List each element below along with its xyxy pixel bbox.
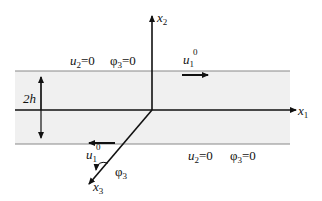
layer-diagram: x2 x1 x3 2h u2=0 φ3=0 u10 u2=0 φ3=0 u10 … — [0, 0, 322, 201]
bottom-cond-phi3: φ3=0 — [230, 148, 256, 165]
bottom-cond-u2: u2=0 — [188, 148, 213, 165]
x2-label: x2 — [156, 10, 167, 27]
top-cond-u2: u2=0 — [70, 53, 95, 70]
rotation-label: φ3 — [115, 164, 128, 181]
top-velocity-label: u10 — [183, 47, 198, 69]
bottom-velocity-label: u10 — [86, 142, 101, 164]
thickness-label: 2h — [23, 91, 36, 106]
top-cond-phi3: φ3=0 — [110, 53, 136, 70]
x1-label: x1 — [297, 103, 308, 120]
x3-label: x3 — [92, 179, 104, 196]
